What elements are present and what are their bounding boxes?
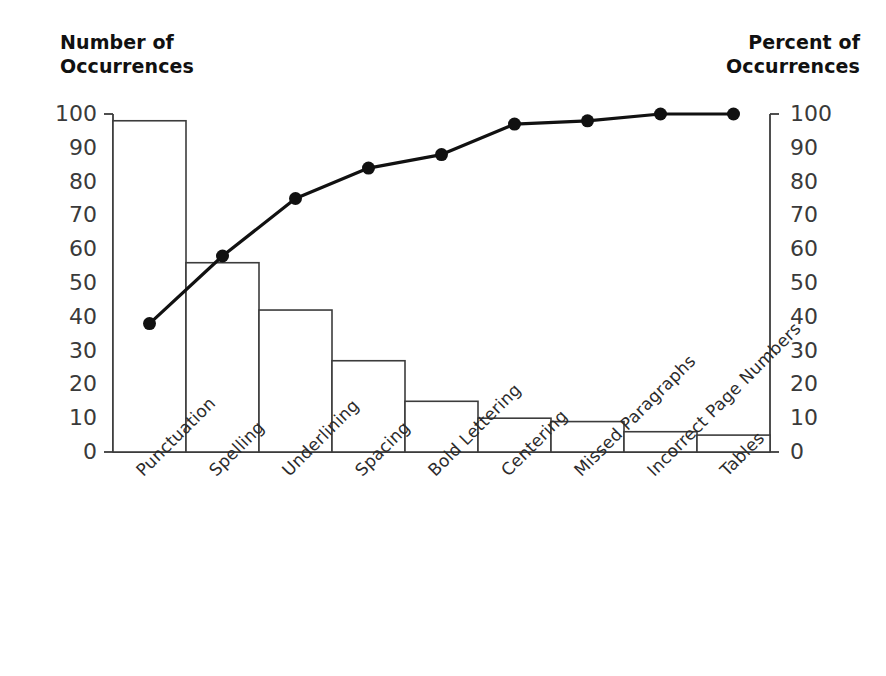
cumulative-point — [362, 162, 375, 175]
right-tick-label: 60 — [790, 238, 850, 260]
right-tick-label: 70 — [790, 204, 850, 226]
cumulative-point — [727, 108, 740, 121]
left-tick-label: 20 — [37, 373, 97, 395]
right-tick-label: 80 — [790, 171, 850, 193]
right-tick-label: 100 — [790, 103, 850, 125]
cumulative-point — [289, 192, 302, 205]
left-tick-label: 90 — [37, 137, 97, 159]
left-tick-label: 100 — [37, 103, 97, 125]
cumulative-point — [508, 118, 521, 131]
pareto-chart: Number of Occurrences Percent of Occurre… — [0, 0, 886, 676]
cumulative-point — [143, 317, 156, 330]
right-tick-label: 30 — [790, 340, 850, 362]
left-tick-label: 50 — [37, 272, 97, 294]
right-tick-label: 10 — [790, 407, 850, 429]
cumulative-point — [435, 148, 448, 161]
right-tick-label: 40 — [790, 306, 850, 328]
bar — [113, 121, 186, 452]
right-tick-label: 90 — [790, 137, 850, 159]
right-tick-label: 50 — [790, 272, 850, 294]
cumulative-point — [654, 108, 667, 121]
left-tick-label: 60 — [37, 238, 97, 260]
left-tick-label: 0 — [37, 441, 97, 463]
left-tick-label: 70 — [37, 204, 97, 226]
cumulative-point — [581, 114, 594, 127]
left-tick-label: 80 — [37, 171, 97, 193]
cumulative-point — [216, 250, 229, 263]
left-tick-label: 30 — [37, 340, 97, 362]
left-tick-label: 40 — [37, 306, 97, 328]
left-tick-label: 10 — [37, 407, 97, 429]
right-tick-label: 20 — [790, 373, 850, 395]
plot-area — [0, 0, 886, 676]
right-tick-label: 0 — [790, 441, 850, 463]
